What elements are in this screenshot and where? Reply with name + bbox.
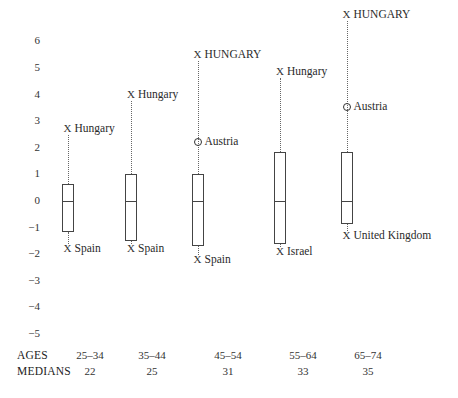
y-tick-label: 4 xyxy=(10,89,40,100)
outlier-label: Austria xyxy=(205,136,239,148)
outlier-label: Austria xyxy=(354,101,388,113)
y-tick-label: −4 xyxy=(10,301,40,312)
age-group-label: 55–64 xyxy=(278,350,328,361)
footer-medians-label: MEDIANS xyxy=(17,366,71,378)
extreme-marker-x: X xyxy=(343,9,351,20)
iqr-box xyxy=(341,152,353,224)
outlier-marker-circle xyxy=(194,138,202,146)
extreme-label-upper: Hungary xyxy=(75,123,115,135)
extreme-marker-x: X xyxy=(127,243,135,254)
age-group-label: 65–74 xyxy=(343,350,393,361)
median-age-value: 25 xyxy=(127,366,177,377)
iqr-box xyxy=(62,184,74,232)
median-age-value: 31 xyxy=(203,366,253,377)
y-tick-label: 6 xyxy=(10,35,40,46)
whisker-upper xyxy=(280,78,281,152)
y-tick-label: −2 xyxy=(10,248,40,259)
whisker-upper xyxy=(347,21,348,152)
age-group-label: 45–54 xyxy=(203,350,253,361)
iqr-box xyxy=(125,174,137,241)
extreme-marker-x: X xyxy=(276,246,284,257)
median-line xyxy=(193,201,203,202)
extreme-marker-x: X xyxy=(194,49,202,60)
whisker-upper xyxy=(68,135,69,184)
median-line xyxy=(275,201,285,202)
extreme-label-lower: Spain xyxy=(205,254,231,266)
whisker-upper xyxy=(198,61,199,175)
extreme-marker-x: X xyxy=(64,123,72,134)
iqr-box xyxy=(192,174,204,246)
y-tick-label: 2 xyxy=(10,142,40,153)
extreme-marker-x: X xyxy=(343,230,351,241)
y-tick-label: 1 xyxy=(10,168,40,179)
median-line xyxy=(63,201,73,202)
extreme-label-upper: HUNGARY xyxy=(354,9,411,21)
extreme-marker-x: X xyxy=(64,243,72,254)
median-line xyxy=(126,201,136,202)
footer-ages-label: AGES xyxy=(17,350,48,362)
iqr-box xyxy=(274,152,286,244)
y-tick-label: −1 xyxy=(10,222,40,233)
median-line xyxy=(342,201,352,202)
extreme-label-lower: Spain xyxy=(75,243,101,255)
extreme-marker-x: X xyxy=(127,89,135,100)
y-tick-label: −3 xyxy=(10,275,40,286)
age-group-label: 25–34 xyxy=(65,350,115,361)
outlier-marker-circle xyxy=(343,103,351,111)
boxplot-chart: 6543210−1−2−3−4−5 XHungaryXSpainXHungary… xyxy=(0,0,458,398)
extreme-label-upper: Hungary xyxy=(138,89,178,101)
extreme-marker-x: X xyxy=(276,66,284,77)
extreme-label-lower: Spain xyxy=(138,243,164,255)
y-tick-label: 0 xyxy=(10,195,40,206)
median-age-value: 35 xyxy=(343,366,393,377)
extreme-marker-x: X xyxy=(194,254,202,265)
extreme-label-upper: HUNGARY xyxy=(205,49,262,61)
y-tick-label: 3 xyxy=(10,115,40,126)
extreme-label-upper: Hungary xyxy=(287,66,327,78)
y-tick-label: −5 xyxy=(10,328,40,339)
extreme-label-lower: Israel xyxy=(287,246,313,258)
median-age-value: 22 xyxy=(65,366,115,377)
whisker-upper xyxy=(131,101,132,175)
extreme-label-lower: United Kingdom xyxy=(354,230,432,242)
y-tick-label: 5 xyxy=(10,62,40,73)
age-group-label: 35–44 xyxy=(127,350,177,361)
median-age-value: 33 xyxy=(278,366,328,377)
